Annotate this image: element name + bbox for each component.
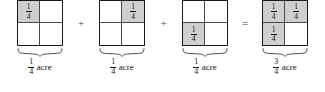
quadrant-bottom-right: [205, 23, 227, 45]
term-addend-1: 1 4 1 4 acre: [17, 0, 63, 76]
operator-slot-3: =: [228, 0, 262, 46]
caption-fraction: 3 4: [273, 58, 279, 76]
fraction-numerator: 1: [293, 3, 299, 11]
area-model-square-3: 1 4: [182, 0, 228, 46]
caption-fraction: 1 4: [110, 58, 116, 76]
brace-1: [17, 48, 63, 57]
plus-icon: +: [78, 0, 84, 46]
fraction-numerator: 1: [191, 26, 197, 34]
caption-unit: acre: [202, 62, 217, 72]
fraction-denominator: 4: [130, 13, 136, 21]
quadrant-top-right: [205, 1, 227, 23]
quadrant-top-right: [40, 1, 62, 23]
brace-sum: [262, 48, 308, 57]
fraction-denominator: 4: [110, 68, 116, 76]
fraction-denominator: 4: [271, 13, 277, 21]
quadrant-bottom-left: 1 4: [263, 23, 285, 45]
quadrant-bottom-right: [285, 23, 307, 45]
caption-3: 1 4 acre: [193, 58, 216, 76]
fraction-denominator: 4: [293, 13, 299, 21]
plus-icon: +: [160, 0, 166, 46]
fraction-numerator: 1: [130, 3, 136, 11]
operator-slot-1: +: [63, 0, 99, 46]
fraction-numerator: 1: [271, 3, 277, 11]
fraction-numerator: 1: [26, 3, 32, 11]
fraction-denominator: 4: [26, 13, 32, 21]
cell-fraction: 1 4: [271, 3, 277, 20]
fraction-numerator: 1: [193, 58, 199, 66]
quadrant-bottom-left: [100, 23, 122, 45]
caption-sum: 3 4 acre: [273, 58, 296, 76]
caption-unit: acre: [119, 62, 134, 72]
quadrant-top-left: [100, 1, 122, 23]
quadrant-top-right: 1 4: [285, 1, 307, 23]
area-model-square-2: 1 4: [99, 0, 145, 46]
caption-fraction: 1 4: [193, 58, 199, 76]
fraction-denominator: 4: [193, 68, 199, 76]
cell-fraction: 1 4: [293, 3, 299, 20]
brace-3: [182, 48, 228, 57]
quadrant-top-left: [183, 1, 205, 23]
fraction-denominator: 4: [191, 35, 197, 43]
quadrant-top-left: 1 4: [18, 1, 40, 23]
caption-unit: acre: [282, 62, 297, 72]
fraction-addition-figure: 1 4 1 4 acre +: [0, 0, 325, 92]
caption-fraction: 1 4: [28, 58, 34, 76]
caption-2: 1 4 acre: [110, 58, 133, 76]
fraction-denominator: 4: [28, 68, 34, 76]
term-addend-3: 1 4 1 4 acre: [182, 0, 228, 76]
area-model-square-1: 1 4: [17, 0, 63, 46]
fraction-denominator: 4: [273, 68, 279, 76]
fraction-denominator: 4: [271, 35, 277, 43]
brace-2: [99, 48, 145, 57]
term-addend-2: 1 4 1 4 acre: [99, 0, 145, 76]
caption-unit: acre: [37, 62, 52, 72]
fraction-numerator: 1: [110, 58, 116, 66]
quadrant-bottom-right: [122, 23, 144, 45]
fraction-numerator: 3: [273, 58, 279, 66]
caption-1: 1 4 acre: [28, 58, 51, 76]
fraction-numerator: 1: [271, 26, 277, 34]
quadrant-bottom-left: 1 4: [183, 23, 205, 45]
cell-fraction: 1 4: [191, 26, 197, 43]
quadrant-bottom-left: [18, 23, 40, 45]
area-model-square-sum: 1 4 1 4 1 4: [262, 0, 308, 46]
term-sum: 1 4 1 4 1 4: [262, 0, 308, 76]
operator-slot-2: +: [145, 0, 182, 46]
cell-fraction: 1 4: [130, 3, 136, 20]
quadrant-top-right: 1 4: [122, 1, 144, 23]
cell-fraction: 1 4: [26, 3, 32, 20]
equals-icon: =: [242, 0, 248, 46]
cell-fraction: 1 4: [271, 26, 277, 43]
fraction-numerator: 1: [28, 58, 34, 66]
quadrant-top-left: 1 4: [263, 1, 285, 23]
quadrant-bottom-right: [40, 23, 62, 45]
